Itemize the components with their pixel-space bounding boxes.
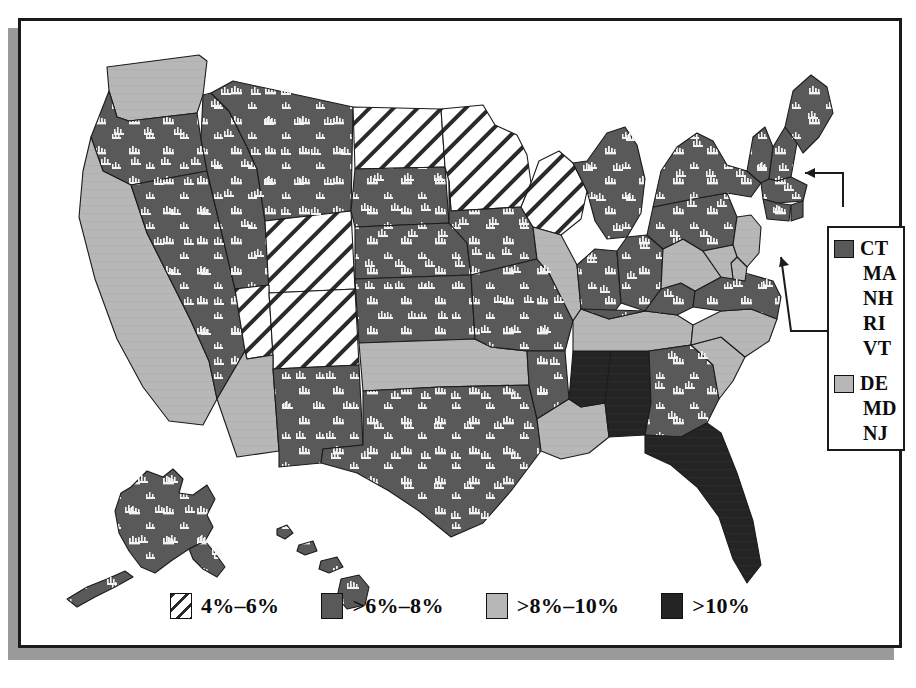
inset-group-light: DE MD NJ (829, 371, 903, 446)
light-swatch-icon (834, 375, 854, 393)
state-WA[interactable] (107, 55, 207, 121)
figure-root: CT MA NH RI VT DE MD NJ (0, 0, 916, 688)
inset-state-list: MD NJ (834, 396, 903, 446)
inset-state-abbr: DE (860, 371, 888, 396)
legend-label: 4%–6% (201, 593, 280, 619)
state-FL[interactable] (645, 423, 761, 583)
state-KS[interactable] (355, 275, 475, 343)
legend-label: >8%–10% (517, 593, 620, 619)
map-panel-frame: CT MA NH RI VT DE MD NJ (18, 18, 902, 648)
inset-group-pattern: CT MA NH RI VT (829, 236, 903, 361)
inset-state-abbr: MD (863, 396, 903, 421)
state-CO[interactable] (269, 289, 359, 369)
state-RI[interactable] (791, 201, 803, 221)
state-MI[interactable] (573, 127, 645, 239)
leader-arrow-newengland (805, 168, 815, 178)
leader-line-midatlantic (781, 257, 827, 331)
state-NY[interactable] (653, 133, 761, 207)
map-surface (21, 21, 899, 645)
pattern-swatch-icon (834, 240, 854, 258)
us-choropleth-map (21, 21, 899, 645)
legend-item[interactable]: >8%–10% (486, 593, 620, 619)
inset-state-abbr: RI (863, 311, 903, 336)
light-swatch-icon (486, 593, 508, 619)
dark-swatch-icon (661, 593, 683, 619)
state-ND[interactable] (353, 107, 445, 169)
legend-item[interactable]: 4%–6% (170, 593, 280, 619)
map-legend: 4%–6% >6%–8% >8%–10% >10% (21, 593, 899, 619)
hatch-swatch-icon (170, 593, 192, 619)
state-AK-panhandle[interactable] (189, 541, 225, 577)
inset-group-spacer (829, 361, 903, 371)
inset-state-abbr: CT (860, 236, 888, 261)
states-layer (67, 55, 833, 609)
state-NE[interactable] (355, 223, 471, 279)
state-AL[interactable] (605, 351, 651, 437)
inset-state-abbr: NJ (863, 421, 903, 446)
inset-state-abbr: VT (863, 336, 903, 361)
state-HI-oahu[interactable] (297, 541, 317, 555)
inset-group-header: CT (834, 236, 903, 261)
inset-group-header: DE (834, 371, 903, 396)
state-MS[interactable] (569, 351, 611, 407)
inset-state-abbr: MA (863, 261, 903, 286)
pattern-swatch-icon (321, 593, 343, 619)
leader-line-newengland (805, 173, 843, 207)
inset-state-abbr: NH (863, 286, 903, 311)
legend-label: >6%–8% (352, 593, 443, 619)
state-HI-kauai[interactable] (277, 525, 293, 539)
state-WY[interactable] (265, 211, 355, 293)
legend-item[interactable]: >10% (661, 593, 750, 619)
inset-state-list: MA NH RI VT (834, 261, 903, 361)
state-IN[interactable] (577, 249, 621, 319)
state-HI-maui[interactable] (319, 557, 343, 573)
state-MN[interactable] (441, 105, 531, 211)
legend-label: >10% (692, 593, 750, 619)
inset-callout-box: CT MA NH RI VT DE MD NJ (827, 226, 905, 451)
legend-item[interactable]: >6%–8% (321, 593, 443, 619)
